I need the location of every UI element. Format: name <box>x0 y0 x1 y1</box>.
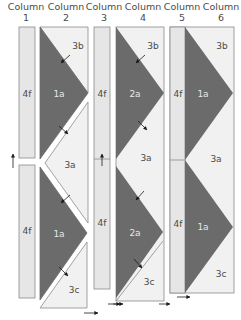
col4-top-triangle-label: 2a <box>129 89 140 99</box>
col1-top-label: 4f <box>23 89 33 99</box>
col6-middle-label: 3a <box>210 154 221 164</box>
col2-top-corner-label: 3b <box>72 41 84 51</box>
col5-bottom-label: 4f <box>174 219 184 229</box>
column-4: 3b 2a 3a 2a 3c <box>113 27 170 304</box>
col5-top-label: 4f <box>174 89 184 99</box>
col4-bottom-corner-label: 3c <box>144 277 155 287</box>
column-1: 4f 4f <box>13 27 35 298</box>
quilt-assembly-diagram: 4f 4f 3b 1a 3a 1a 3c 4f 4f <box>0 0 241 320</box>
col4-bottom-triangle-label: 2a <box>129 228 140 238</box>
col2-middle-label: 3a <box>64 160 75 170</box>
col4-middle-label: 3a <box>140 153 151 163</box>
col2-bottom-corner-label: 3c <box>69 285 80 295</box>
col1-bottom-label: 4f <box>23 226 33 236</box>
col3-top-label: 4f <box>98 89 108 99</box>
col2-bottom-triangle-label: 1a <box>53 229 64 239</box>
col6-bottom-corner-label: 3c <box>216 269 227 279</box>
col3-bottom-label: 4f <box>98 218 108 228</box>
col4-top-corner-label: 3b <box>147 41 159 51</box>
column-5-6: 4f 4f 3b 1a 3a 1a 3c <box>170 27 234 297</box>
column-2: 3b 1a 3a 1a 3c <box>40 27 98 313</box>
col2-top-triangle-label: 1a <box>53 89 64 99</box>
col6-top-triangle-label: 1a <box>197 89 208 99</box>
col6-bottom-triangle-label: 1a <box>197 222 208 232</box>
col6-top-corner-label: 3b <box>216 41 228 51</box>
